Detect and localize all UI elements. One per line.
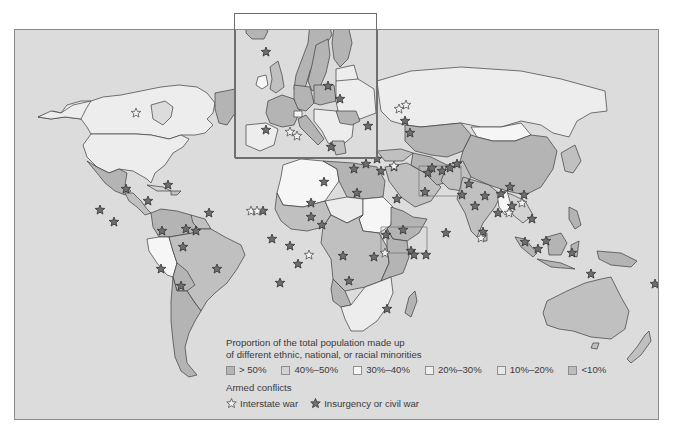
civil-war-marker xyxy=(363,121,373,130)
legend-item-lt10: <10% xyxy=(568,364,606,376)
map-legend: Proportion of the total population made … xyxy=(226,337,656,411)
greenland xyxy=(215,89,237,125)
civil-war-marker xyxy=(650,279,659,288)
civil-war-marker xyxy=(441,228,451,237)
legend-label-interstate: Interstate war xyxy=(240,398,298,410)
turkey xyxy=(377,149,413,161)
legend-label-10-20: 10%–20% xyxy=(510,364,554,376)
romania xyxy=(336,111,360,125)
swatch-20-30 xyxy=(425,366,434,375)
filled-star-icon xyxy=(310,398,321,409)
legend-item-10-20: 10%–20% xyxy=(497,364,554,376)
interstate-war-marker xyxy=(292,131,302,140)
civil-war-marker xyxy=(204,208,214,217)
greece xyxy=(332,141,346,155)
swatch-gt50 xyxy=(226,366,235,375)
legend-title-line2: of different ethnic, national, or racial… xyxy=(226,349,656,361)
swatch-10-20 xyxy=(497,366,506,375)
legend-item-20-30: 20%–30% xyxy=(425,364,482,376)
legend-label-lt10: <10% xyxy=(581,364,606,376)
spain-portugal xyxy=(246,123,278,151)
legend-categories: > 50% 40%–50% 30%–40% 20%–30% 10%–20% <1… xyxy=(226,363,656,377)
ethiopia-horn xyxy=(387,207,427,241)
legend-label-40-50: 40%–50% xyxy=(294,364,338,376)
civil-war-marker xyxy=(586,269,596,278)
civil-war-marker xyxy=(143,196,153,205)
sudan xyxy=(359,197,393,233)
finland xyxy=(332,29,352,67)
legend-label-30-40: 30%–40% xyxy=(366,364,410,376)
civil-war-marker xyxy=(261,47,271,56)
legend-title-line1: Proportion of the total population made … xyxy=(226,337,656,349)
korea-japan xyxy=(561,145,581,173)
colombia-venezuela xyxy=(151,209,199,237)
legend-label-gt50: > 50% xyxy=(239,364,266,376)
outline-star-icon xyxy=(226,398,237,409)
poland xyxy=(314,85,336,105)
new-guinea xyxy=(597,251,637,267)
java xyxy=(537,259,575,269)
madagascar xyxy=(405,291,417,317)
legend-interstate-war: Interstate war xyxy=(226,398,298,410)
swatch-lt10 xyxy=(568,366,577,375)
interstate-war-marker xyxy=(304,250,314,259)
europe-inset-svg xyxy=(236,29,378,159)
civil-war-marker xyxy=(275,278,285,287)
armed-conflicts-title: Armed conflicts xyxy=(226,382,656,394)
legend-insurgency-civil-war: Insurgency or civil war xyxy=(310,398,419,410)
iceland xyxy=(246,29,268,39)
civil-war-marker xyxy=(95,205,105,214)
kazakhstan-central-asia xyxy=(405,123,471,157)
europe-inset-map xyxy=(235,29,378,159)
hispaniola xyxy=(171,191,181,195)
borneo xyxy=(547,233,567,255)
civil-war-marker xyxy=(421,250,431,259)
switzerland xyxy=(294,111,302,117)
ireland xyxy=(256,75,268,89)
civil-war-marker xyxy=(267,234,277,243)
legend-item-gt50: > 50% xyxy=(226,364,266,376)
legend-label-20-30: 20%–30% xyxy=(438,364,482,376)
swatch-30-40 xyxy=(353,366,362,375)
conflict-types: Interstate war Insurgency or civil war xyxy=(226,397,656,411)
civil-war-marker xyxy=(285,241,295,250)
philippines xyxy=(569,207,581,229)
swatch-40-50 xyxy=(281,366,290,375)
civil-war-marker xyxy=(293,259,303,268)
legend-label-civil: Insurgency or civil war xyxy=(324,398,419,410)
australia xyxy=(543,277,629,339)
uk xyxy=(270,61,284,93)
civil-war-marker xyxy=(109,217,119,226)
legend-item-30-40: 30%–40% xyxy=(353,364,410,376)
legend-item-40-50: 40%–50% xyxy=(281,364,338,376)
